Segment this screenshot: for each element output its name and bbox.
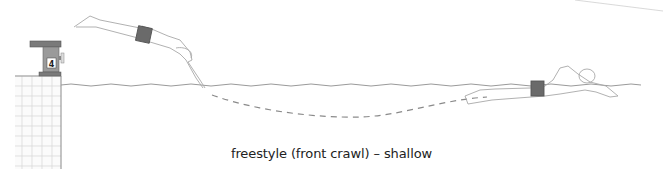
swimsuit — [135, 26, 152, 44]
background-line — [575, 0, 663, 11]
swimsuit — [531, 81, 544, 96]
swim-start-diagram: 4 — [0, 0, 663, 169]
diagram-caption: freestyle (front crawl) – shallow — [0, 146, 663, 161]
underwater-glide-path — [212, 95, 487, 117]
starting-block: 4 — [30, 41, 64, 76]
water-surface — [61, 84, 641, 86]
swimming-swimmer — [465, 66, 618, 104]
lane-number: 4 — [49, 60, 55, 69]
diving-swimmer — [74, 16, 205, 88]
